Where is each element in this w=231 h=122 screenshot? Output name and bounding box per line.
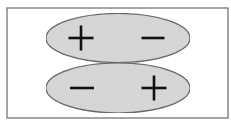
top-lobe xyxy=(46,14,190,63)
bottom-lobe-ellipse xyxy=(46,63,190,113)
top-lobe-ellipse xyxy=(46,14,190,63)
bottom-lobe xyxy=(46,63,190,113)
orbital-lobes-diagram xyxy=(0,0,231,122)
